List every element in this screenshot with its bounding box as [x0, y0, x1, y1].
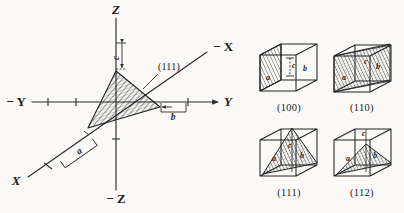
cube-112-caption: (112): [350, 187, 374, 199]
cube-110-label-a: a: [342, 73, 346, 82]
negative-y-axis-label: − Y: [6, 94, 26, 109]
x-intercept-foot-marker: [84, 131, 89, 135]
x-axis-label: X: [11, 173, 21, 188]
cube-112-label-a: a: [346, 154, 350, 163]
cube-100-label-c: c: [292, 61, 296, 70]
a-intercept-label: a: [74, 145, 84, 156]
negative-x-axis-label: − X: [213, 39, 234, 54]
cube-110-label-c: c: [364, 57, 368, 66]
z-axis-label: Z: [111, 2, 120, 17]
cube-111-label-a: a: [272, 154, 276, 163]
y-axis-label: Y: [224, 94, 233, 109]
cube-110-caption: (110): [350, 102, 374, 114]
miller-indices-figure: c b a (111) Z − Z Y − Y − X X: [0, 0, 404, 213]
axes-diagram: c b a (111) Z − Z Y − Y − X X: [6, 2, 233, 206]
cube-100-caption: (100): [277, 102, 301, 114]
cube-100-shaded-face: [260, 44, 281, 91]
cube-110-label-b: b: [376, 62, 380, 71]
cube-100-label-b: b: [303, 64, 307, 73]
cube-100-group: c b a (100): [260, 44, 317, 114]
b-dimension-bracket: [161, 103, 186, 112]
cube-112-group: c b a (112): [334, 129, 391, 199]
b-intercept-label: b: [171, 112, 176, 122]
cube-111-label-b: b: [300, 151, 304, 160]
plane-111-overlay-hatch: [88, 71, 160, 128]
cube-112-label-b: b: [373, 151, 377, 160]
plane-111-annotation: (111): [158, 61, 180, 73]
figure-root: c b a (111) Z − Z Y − Y − X X: [0, 0, 404, 213]
cube-110-group: c b a (110): [334, 44, 391, 114]
cube-112-label-c: c: [362, 129, 366, 138]
x-axis-tick-1: [44, 163, 52, 169]
plane-111-leader-line: [143, 74, 158, 89]
cube-100-label-a: a: [266, 73, 270, 82]
cube-111-caption: (111): [277, 187, 301, 199]
cube-111-label-c: c: [288, 141, 292, 150]
negative-z-axis-label: − Z: [106, 191, 126, 206]
cube-111-group: c b a (111): [260, 128, 317, 199]
